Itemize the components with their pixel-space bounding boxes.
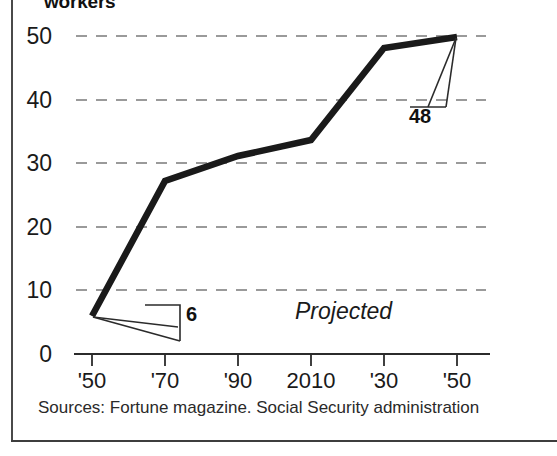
gridlines	[76, 36, 486, 290]
data-series-line	[92, 37, 457, 316]
y-tick-label-0: 0	[8, 343, 52, 366]
source-note: Sources: Fortune magazine. Social Securi…	[38, 398, 479, 418]
callout-leader-48	[410, 38, 456, 107]
chart-figure: workers	[0, 0, 557, 456]
x-tick-label-1950: '50	[52, 370, 132, 392]
x-axis-ticks	[92, 354, 457, 366]
annotation-projected-label: Projected	[295, 298, 392, 325]
callout-leader-6	[93, 305, 180, 341]
y-tick-label-20: 20	[8, 216, 52, 239]
y-tick-label-50: 50	[8, 25, 52, 48]
y-tick-label-10: 10	[8, 279, 52, 302]
x-tick-label-1990: '90	[198, 370, 278, 392]
y-tick-label-30: 30	[8, 152, 52, 175]
x-tick-label-1970: '70	[125, 370, 205, 392]
x-tick-label-2030: '30	[344, 370, 424, 392]
x-tick-label-2010: 2010	[271, 370, 351, 392]
annotation-value-48: 48	[409, 105, 431, 128]
x-tick-label-2050: '50	[417, 370, 497, 392]
y-tick-label-40: 40	[8, 89, 52, 112]
annotation-value-6: 6	[186, 303, 197, 326]
